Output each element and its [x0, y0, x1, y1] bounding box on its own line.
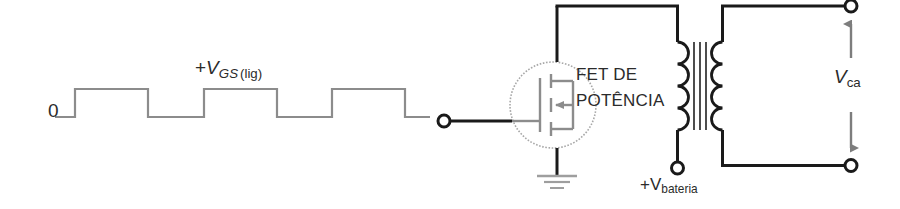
vca-symbol: V	[834, 66, 847, 87]
vgs-subscript: GS	[219, 66, 238, 81]
gate-input-terminal	[438, 115, 512, 127]
circuit-drawing	[0, 0, 900, 209]
vca-subscript: ca	[847, 75, 861, 90]
mosfet-label-line2: POTÊNCIA	[576, 88, 665, 114]
waveform-signal-label: +VGS(lig)	[195, 58, 262, 77]
output-loop-wires	[721, 6, 845, 167]
battery-terminal	[672, 162, 684, 174]
vbat-subscript: bateria	[661, 182, 697, 196]
battery-voltage-label: +Vbateria	[640, 176, 698, 193]
drain-wire	[556, 6, 680, 62]
ground-symbol	[537, 176, 577, 188]
vgs-symbol: V	[206, 57, 219, 78]
mosfet-label-line1: FET DE	[576, 62, 665, 88]
vgs-prefix: +	[195, 57, 206, 78]
vgs-qualifier: (lig)	[240, 66, 262, 81]
vbat-prefix: +	[640, 175, 650, 194]
circuit-figure: 0 +VGS(lig) FET DEPOTÊNCIA +Vbateria Vca	[0, 0, 900, 209]
mosfet-text-label: FET DEPOTÊNCIA	[576, 62, 665, 115]
transformer	[678, 42, 723, 162]
output-terminal-bottom	[845, 160, 857, 172]
waveform-zero-label: 0	[48, 101, 59, 120]
output-terminal-top	[845, 0, 857, 12]
output-voltage-label: Vca	[834, 67, 861, 86]
waveform-trace	[55, 89, 430, 117]
vbat-symbol: V	[650, 175, 661, 194]
